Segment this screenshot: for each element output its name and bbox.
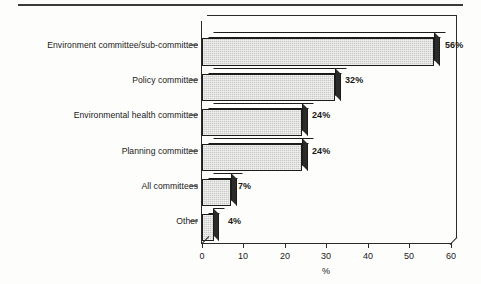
category-tick-0 [190,45,198,46]
category-label-3: Planning committee [122,146,198,156]
x-axis-title: % [322,266,330,276]
bar-0-front-face [202,38,434,66]
bar-1-front-face [202,74,335,101]
x-tick-label-0: 0 [199,251,204,261]
x-tick-5 [409,243,410,248]
bar-4 [202,173,243,206]
bar-1 [202,68,347,101]
value-label-4: 7% [238,181,251,191]
x-tick-3 [326,243,327,248]
x-tick-1 [243,243,244,248]
chart-page: Environment committee/sub-committee Poli… [0,0,481,284]
category-tick-1 [190,80,198,81]
category-tick-5 [190,221,198,222]
bar-4-front-face [202,179,231,206]
x-tick-label-5: 50 [404,251,414,261]
value-label-5: 4% [228,216,241,226]
category-label-2: Environmental health committee [74,110,198,120]
y-axis-line [201,21,202,244]
plot-frame-top [207,15,457,16]
x-tick-label-1: 10 [238,251,248,261]
bar-5 [202,208,225,241]
value-label-0: 56% [445,40,463,50]
bar-0 [202,32,446,66]
x-tick-label-2: 20 [280,251,290,261]
category-label-1: Policy committee [132,75,198,85]
category-tick-2 [190,115,198,116]
x-tick-2 [285,243,286,248]
x-tick-label-4: 40 [363,251,373,261]
bar-3-front-face [202,144,302,171]
x-tick-label-6: 60 [446,251,456,261]
bar-2-front-face [202,109,302,136]
x-tick-0 [202,243,203,248]
x-tick-4 [368,243,369,248]
category-label-0: Environment committee/sub-committee [47,40,198,50]
value-label-1: 32% [345,75,363,85]
bar-chart-plot: Environment committee/sub-committee Poli… [0,0,481,284]
value-label-3: 24% [312,146,330,156]
bar-2 [202,103,314,136]
category-tick-4 [190,186,198,187]
x-tick-label-3: 30 [321,251,331,261]
value-label-2: 24% [312,110,330,120]
category-tick-3 [190,151,198,152]
bar-3 [202,138,314,171]
plot-frame-right [456,15,457,238]
x-tick-6 [451,243,452,248]
